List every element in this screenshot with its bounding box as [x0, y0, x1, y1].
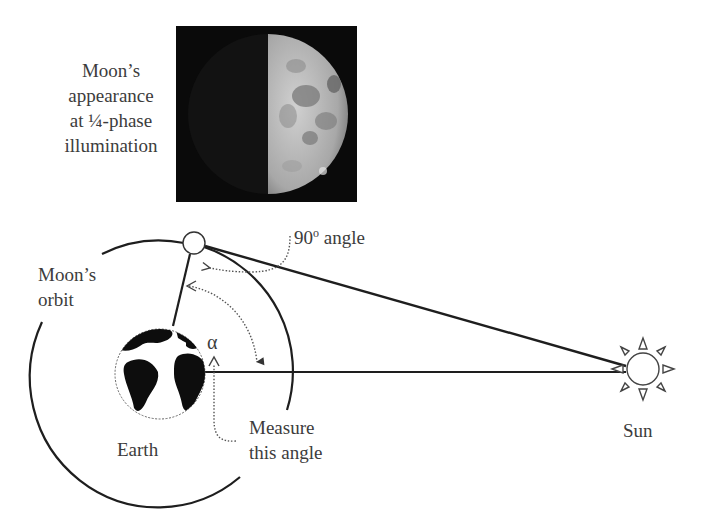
- moon-sun-line: [205, 246, 626, 366]
- earth-globe-icon: [115, 328, 206, 419]
- moon-icon: [183, 232, 205, 254]
- moon-orbit-arc-upper: [102, 241, 184, 254]
- sun-icon: [612, 338, 674, 400]
- measure-angle-arrowhead: [209, 357, 219, 366]
- alpha-symbol: α: [207, 330, 217, 355]
- moon-orbit-arc-right: [204, 247, 293, 410]
- alpha-angle-arc-start-arrowhead: [187, 281, 196, 291]
- earth-label: Earth: [117, 437, 158, 462]
- orbit-diagram: [0, 0, 703, 530]
- angle-90-label: 90o angle: [294, 221, 365, 250]
- measure-line-1: Measure: [249, 415, 322, 440]
- measure-angle-pointer-arrow: [214, 365, 236, 441]
- measure-line-2: this angle: [249, 440, 322, 465]
- sun-label: Sun: [623, 418, 653, 443]
- measure-angle-label: Measure this angle: [249, 415, 322, 465]
- moons-orbit-line-2: orbit: [38, 287, 96, 312]
- moons-orbit-label: Moon’s orbit: [38, 262, 96, 312]
- angle-90-word: angle: [324, 227, 365, 248]
- angle-90-value: 90: [294, 227, 313, 248]
- degree-symbol: o: [313, 226, 319, 240]
- alpha-angle-arc-arrow: [189, 286, 257, 362]
- earth-moon-line: [173, 254, 190, 326]
- moons-orbit-line-1: Moon’s: [38, 262, 96, 287]
